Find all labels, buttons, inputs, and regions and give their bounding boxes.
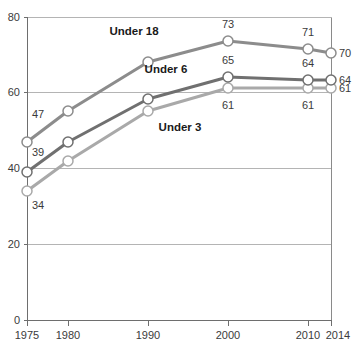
data-point-under-6-2014: [326, 75, 336, 85]
data-point-under-3-1975: [22, 186, 32, 196]
data-point-under-18-2010: [303, 44, 313, 54]
y-label-20: 20: [8, 238, 20, 250]
x-label-1980: 1980: [56, 329, 80, 341]
data-point-under-3-2000: [223, 83, 233, 93]
data-point-under-18-2000: [223, 36, 233, 46]
data-point-under-6-1980: [63, 137, 73, 147]
series-label-under-3: Under 3: [159, 121, 202, 133]
y-label-0: 0: [14, 314, 20, 326]
data-point-under-18-2014: [326, 48, 336, 58]
data-point-under-3-1980: [63, 156, 73, 166]
data-point-under-6-1990: [143, 94, 153, 104]
x-label-2000: 2000: [216, 329, 240, 341]
x-label-2014: 2014: [326, 329, 350, 341]
series-label-under-6: Under 6: [145, 63, 188, 75]
x-axis-labels: 1975 1980 1990 2000 2010 2014: [15, 329, 350, 341]
y-label-60: 60: [8, 86, 20, 98]
value-label-under-3-2000: 61: [222, 99, 234, 111]
value-label-under-18-2010: 71: [302, 26, 314, 38]
value-label-under-6-1975: 39: [32, 146, 44, 158]
value-label-under-3-1975: 34: [32, 199, 44, 211]
x-label-1975: 1975: [15, 329, 39, 341]
y-axis-labels: 80 60 40 20 0: [8, 11, 20, 326]
data-point-under-6-1975: [22, 167, 32, 177]
chart-canvas: 80 60 40 20 0 1975 1980 1990 2000 2010 2…: [0, 0, 359, 352]
data-point-under-18-1975: [22, 137, 32, 147]
x-tick-marks: [28, 321, 332, 326]
value-label-under-6-2010: 64: [302, 57, 314, 69]
x-label-1990: 1990: [136, 329, 160, 341]
data-point-under-6-2000: [223, 72, 233, 82]
value-label-under-3-2010: 61: [302, 99, 314, 111]
y-label-80: 80: [8, 11, 20, 23]
value-label-under-6-2000: 65: [222, 54, 234, 66]
data-point-under-6-2010: [303, 75, 313, 85]
x-label-2010: 2010: [296, 329, 320, 341]
value-label-under-18-1975: 47: [32, 108, 44, 120]
value-label-under-3-2014: 61: [339, 82, 351, 94]
data-point-under-18-1980: [63, 106, 73, 116]
line-chart: 80 60 40 20 0 1975 1980 1990 2000 2010 2…: [0, 0, 359, 352]
value-label-under-18-2000: 73: [222, 18, 234, 30]
value-label-under-18-2014: 70: [339, 47, 351, 59]
data-point-under-3-1990: [143, 106, 153, 116]
y-label-40: 40: [8, 162, 20, 174]
series-label-under-18: Under 18: [109, 25, 159, 37]
